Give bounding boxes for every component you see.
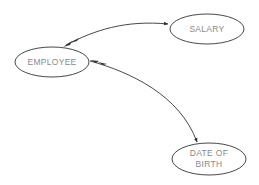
node-employee-label: EMPLOYEE: [27, 57, 76, 68]
node-salary-label: SALARY: [189, 24, 224, 35]
node-date-of-birth-label: DATE OF BIRTH: [190, 148, 228, 170]
arrowhead-icon: [63, 41, 72, 47]
edge-employee-dob: [90, 60, 197, 142]
edge-employee-salary: [63, 23, 168, 47]
